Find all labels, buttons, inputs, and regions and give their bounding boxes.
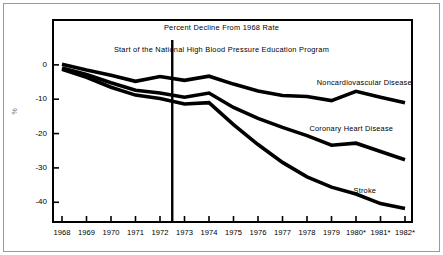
y-axis-tick-label: 0 [21,61,47,69]
y-axis-title: % [11,108,18,114]
y-axis-tick-label: -30 [21,164,47,172]
series-label: Noncardiovascular Disease [317,79,412,86]
y-axis-tick-label: -20 [21,130,47,138]
series-label: Stroke [354,187,377,194]
series-label: Coronary Heart Disease [309,125,393,132]
x-axis-tick-label: 1982* [390,229,420,237]
y-axis-tick-label: -10 [21,95,47,103]
y-axis-tick-label: -40 [21,198,47,206]
chart-figure: Percent Decline From 1968 Rate Start of … [0,0,443,255]
